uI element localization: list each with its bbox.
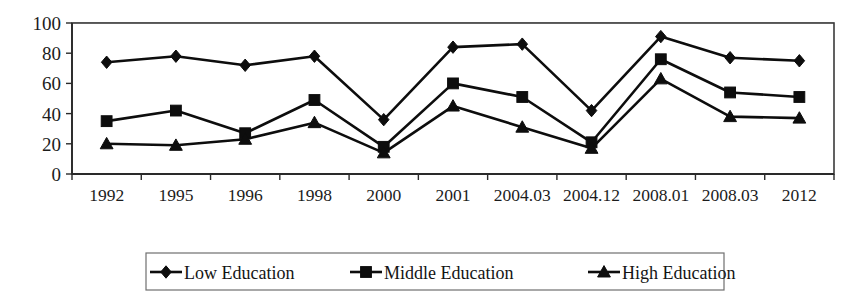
x-tick-label-2001: 2001: [436, 185, 471, 205]
x-tick-label-1996: 1996: [228, 185, 263, 205]
x-tick-label-1992: 1992: [89, 185, 124, 205]
square-marker-icon: [794, 92, 805, 103]
line-chart-figure: 020406080100 199219951996199820002001200…: [0, 0, 848, 301]
y-tick-label: 60: [42, 73, 61, 94]
x-tick-label-2000: 2000: [366, 185, 401, 205]
y-tick-label: 20: [42, 134, 61, 155]
square-marker-icon: [171, 105, 182, 116]
square-marker-icon: [655, 54, 666, 65]
y-tick-label: 0: [52, 164, 62, 185]
x-tick-label-1998: 1998: [297, 185, 332, 205]
x-tick-label-2008.03: 2008.03: [702, 185, 759, 205]
y-tick-label: 40: [42, 104, 61, 125]
legend-label: High Education: [622, 263, 735, 283]
x-tick-label-2004.12: 2004.12: [563, 185, 620, 205]
chart-canvas: 020406080100 199219951996199820002001200…: [0, 0, 848, 301]
y-tick-label: 80: [42, 43, 61, 64]
y-tick-label: 100: [33, 13, 62, 34]
chart-legend: Low EducationMiddle EducationHigh Educat…: [146, 253, 735, 290]
square-marker-icon: [361, 267, 372, 278]
x-tick-label-2008.01: 2008.01: [632, 185, 689, 205]
x-tick-label-2012: 2012: [782, 185, 817, 205]
legend-label: Middle Education: [384, 263, 513, 283]
square-marker-icon: [517, 92, 528, 103]
x-tick-label-1995: 1995: [158, 185, 193, 205]
square-marker-icon: [448, 78, 459, 89]
square-marker-icon: [725, 87, 736, 98]
square-marker-icon: [309, 95, 320, 106]
square-marker-icon: [101, 116, 112, 127]
legend-label: Low Education: [184, 263, 294, 283]
x-tick-label-2004.03: 2004.03: [494, 185, 551, 205]
